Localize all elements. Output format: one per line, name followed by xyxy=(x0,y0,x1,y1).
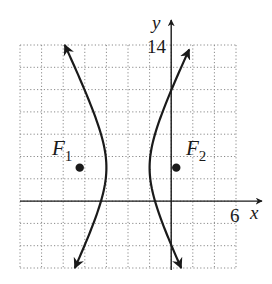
y-axis-label: y xyxy=(152,13,160,32)
f2-subscript: 2 xyxy=(199,148,207,164)
hyperbola-right-branch xyxy=(150,49,190,268)
f1-subscript: 1 xyxy=(65,148,73,164)
focus-point-f1 xyxy=(76,163,84,171)
f2-letter: F xyxy=(186,136,199,160)
focus-label-f2: F2 xyxy=(186,138,206,164)
x-tick-6: 6 xyxy=(230,206,240,225)
x-axis-label: x xyxy=(250,203,258,222)
y-tick-14: 14 xyxy=(147,37,166,56)
focus-point-f2 xyxy=(172,163,180,171)
f1-letter: F xyxy=(52,136,65,160)
hyperbola-plot xyxy=(0,0,272,284)
focus-label-f1: F1 xyxy=(52,138,72,164)
